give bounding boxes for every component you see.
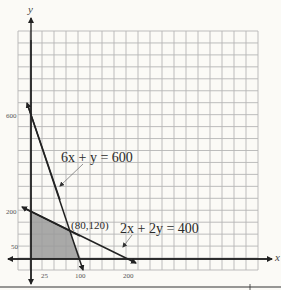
intersection-label: (80,120) [71,219,109,231]
y-tick-200: 200 [6,208,17,216]
y-axis-label: y [28,3,33,15]
chart-canvas [0,0,281,290]
x-tick-200: 200 [123,272,134,280]
y-tick-50: 50 [11,243,18,251]
x-tick-25: 25 [41,272,48,280]
equation-6x-plus-y: 6x + y = 600 [61,150,133,166]
x-tick-100: 100 [75,272,86,280]
equation-2x-plus-2y: 2x + 2y = 400 [120,221,199,237]
x-axis-label: x [275,251,280,263]
y-tick-600: 600 [6,112,17,120]
eq1-leader [60,164,83,186]
